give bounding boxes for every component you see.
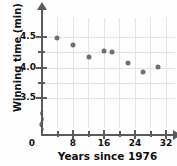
y-axis-tick-minor bbox=[38, 51, 45, 53]
y-axis-tick-major bbox=[36, 67, 47, 69]
gridline-vertical bbox=[73, 18, 74, 128]
x-axis-title: Years since 1976 bbox=[38, 150, 177, 162]
gridline-horizontal bbox=[42, 37, 175, 38]
y-axis-tick-major bbox=[36, 97, 47, 99]
x-axis-label-16: 16 bbox=[92, 139, 116, 148]
data-point bbox=[102, 49, 107, 54]
x-axis-tick-minor bbox=[150, 131, 152, 137]
data-point bbox=[156, 65, 161, 70]
axis-break-icon bbox=[34, 110, 50, 132]
data-point bbox=[141, 70, 146, 75]
gridline-vertical bbox=[150, 18, 151, 128]
x-axis-label-0: 0 bbox=[20, 139, 44, 148]
gridline-vertical bbox=[135, 18, 136, 128]
x-axis-tick-minor bbox=[119, 131, 121, 137]
x-axis-label-24: 24 bbox=[123, 139, 147, 148]
gridline-vertical bbox=[88, 18, 89, 128]
data-point bbox=[87, 55, 92, 60]
scatter-plot-figure: 4.5 4.0 3.5 0 8 16 24 32 Winning time (m… bbox=[0, 0, 177, 166]
x-axis-tick-minor bbox=[57, 131, 59, 137]
data-point bbox=[71, 43, 76, 48]
gridline-vertical bbox=[57, 18, 58, 128]
plot-area bbox=[42, 18, 175, 128]
y-axis-tick-major bbox=[36, 36, 47, 38]
x-axis-line bbox=[41, 134, 175, 136]
data-point bbox=[110, 50, 115, 55]
data-point bbox=[55, 36, 60, 41]
x-axis-tick-minor bbox=[88, 131, 90, 137]
y-axis-arrow-icon bbox=[37, 2, 47, 10]
data-point bbox=[126, 61, 131, 66]
gridline-horizontal bbox=[42, 98, 175, 99]
x-axis-label-32: 32 bbox=[154, 139, 177, 148]
y-axis-title: Winning time (min) bbox=[12, 2, 23, 114]
gridline-horizontal bbox=[42, 83, 175, 84]
gridline-vertical bbox=[119, 18, 120, 128]
gridline-horizontal bbox=[42, 52, 175, 53]
y-axis-tick-minor bbox=[38, 82, 45, 84]
gridline-vertical bbox=[104, 18, 105, 128]
gridline-vertical bbox=[166, 18, 167, 128]
x-axis-label-8: 8 bbox=[61, 139, 85, 148]
